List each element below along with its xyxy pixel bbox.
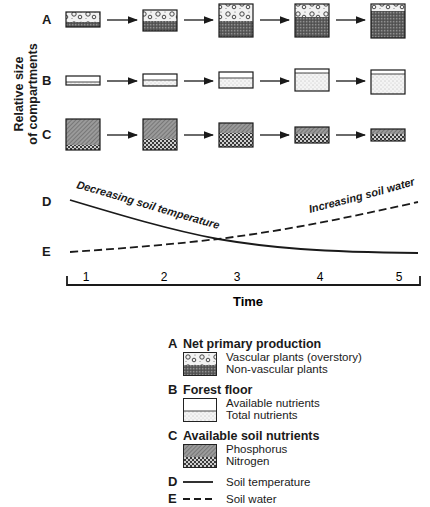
row-c-boxes: [66, 119, 405, 150]
legend-b-swatch: [183, 398, 217, 422]
legend-b-items: Available nutrients Total nutrients: [183, 397, 430, 422]
legend-available-nutrients: Available nutrients: [226, 397, 320, 409]
time-curves: Decreasing soil temperature Increasing s…: [0, 160, 430, 320]
legend-c-swatch: [183, 444, 217, 468]
box-c-3: [219, 123, 253, 147]
dashed-line-icon: [183, 497, 217, 501]
box-b-1: [66, 76, 100, 85]
legend-d: D Soil temperature: [168, 473, 430, 490]
legend-b-heading: B Forest floor: [168, 382, 430, 397]
box-c-5: [371, 129, 405, 141]
box-a-3: [219, 4, 253, 37]
box-b-4: [295, 69, 329, 91]
time-axis-title: Time: [233, 294, 263, 309]
solid-line-icon: [183, 480, 217, 484]
soil-temperature-curve: [70, 200, 418, 253]
box-b-5: [371, 70, 405, 94]
tick-4: 4: [317, 270, 324, 284]
box-a-1: [66, 12, 100, 27]
box-a-2: [143, 10, 177, 31]
box-b-3: [219, 72, 253, 88]
water-annotation: Increasing soil water: [307, 175, 416, 215]
tick-3: 3: [234, 270, 241, 284]
legend-c-heading: C Available soil nutrients: [168, 428, 430, 443]
box-c-2: [143, 119, 177, 150]
time-axis: [67, 276, 420, 285]
legend-nitrogen: Nitrogen: [226, 455, 287, 467]
legend-non-vascular-plants: Non-vascular plants: [226, 363, 362, 375]
tick-2: 2: [161, 270, 168, 284]
soil-water-curve: [70, 202, 418, 252]
legend-e: E Soil water: [168, 490, 430, 507]
legend-phosphorus: Phosphorus: [226, 443, 287, 455]
row-b-boxes: [66, 69, 405, 94]
legend-c-items: Phosphorus Nitrogen: [183, 443, 430, 468]
box-a-5: [371, 4, 405, 38]
box-a-4: [295, 4, 329, 37]
legend: A Net primary production Vascular plants…: [168, 336, 430, 507]
legend-total-nutrients: Total nutrients: [226, 409, 320, 421]
legend-a-heading: A Net primary production: [168, 336, 430, 351]
box-b-2: [143, 74, 177, 86]
box-c-4: [295, 127, 329, 143]
legend-a-items: Vascular plants (overstory) Non-vascular…: [183, 351, 430, 376]
tick-1: 1: [83, 270, 90, 284]
row-a-boxes: [66, 4, 405, 38]
legend-a-swatch: [183, 352, 217, 376]
compartment-diagram: [0, 0, 430, 160]
legend-vascular-plants: Vascular plants (overstory): [226, 351, 362, 363]
box-c-1: [66, 119, 100, 150]
tick-5: 5: [396, 270, 403, 284]
